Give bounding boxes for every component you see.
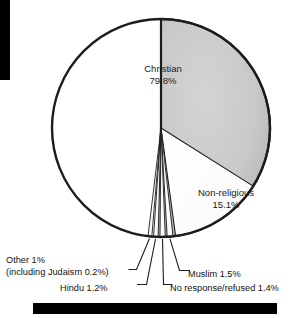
slice-label-non-religious: Non-religious [198,187,254,198]
callout-other: Other 1% (including Judaism 0.2%) [6,255,109,278]
callout-other-line2: (including Judaism 0.2%) [6,267,109,279]
callout-no-response: No response/refused 1.4% [170,283,279,295]
slice-value-non-religious: 15.1% [213,199,240,210]
slice-value-christian: 79.8% [150,75,177,86]
leader-line-muslim [170,239,190,271]
callout-hindu: Hindu 1.2% [60,283,108,295]
slice-label-christian: Christian [144,63,182,74]
callout-other-line1: Other 1% [6,255,109,267]
leader-line-other [129,239,150,270]
religion-pie-chart-figure: Christian 79.8% Non-religious 15.1% Othe… [0,0,308,318]
leader-lines [129,239,191,285]
leader-line-no-response [163,239,173,285]
callout-muslim: Muslim 1.5% [188,269,241,281]
bottom-rule [33,303,277,314]
